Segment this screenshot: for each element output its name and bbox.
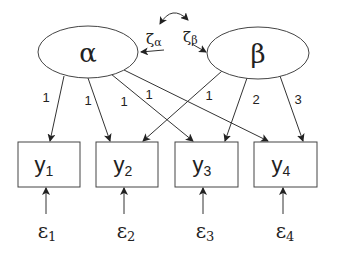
loading-alpha-y2: 1	[84, 93, 91, 108]
loading-beta-y3: 2	[252, 92, 259, 107]
latent-beta: β	[207, 27, 309, 79]
latent-alpha: α	[38, 26, 138, 78]
sem-diagram: 1 1 1 1 1 2 3 α β ζα ζβ y1 y2 y3 y4 ε1 ε	[0, 0, 337, 256]
indicator-y4: y4	[254, 142, 317, 187]
path-alpha-y1	[50, 76, 64, 141]
disturbance-covariance-arrow	[160, 13, 188, 24]
path-alpha-y2	[88, 78, 110, 141]
zeta-alpha-arrow	[141, 50, 164, 52]
path-beta-y3	[225, 78, 247, 141]
epsilon-1-label: ε1	[38, 219, 57, 244]
beta-label: β	[250, 39, 265, 69]
loading-beta-y2: 1	[205, 88, 212, 103]
loading-alpha-y4: 1	[145, 87, 152, 102]
alpha-loading-paths	[50, 70, 268, 141]
epsilon-3-label: ε3	[196, 219, 215, 244]
epsilon-2-label: ε2	[117, 219, 136, 244]
loading-alpha-y1: 1	[42, 90, 49, 105]
zeta-beta-label: ζβ	[183, 28, 198, 47]
epsilon-4-label: ε4	[276, 219, 295, 244]
indicator-y3: y3	[175, 142, 238, 187]
zeta-alpha-label: ζα	[146, 30, 162, 49]
loading-alpha-y3: 1	[120, 94, 127, 109]
path-beta-y2	[143, 71, 222, 141]
indicator-y2: y2	[96, 142, 158, 187]
alpha-label: α	[79, 38, 97, 68]
loading-beta-y4: 3	[294, 92, 301, 107]
path-beta-y4	[280, 76, 303, 141]
indicator-y1: y1	[18, 142, 80, 187]
beta-loading-paths	[143, 71, 303, 141]
